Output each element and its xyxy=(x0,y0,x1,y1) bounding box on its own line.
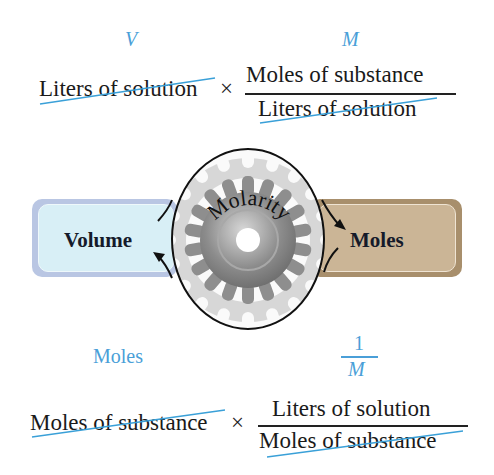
volume-box-label: Volume xyxy=(64,228,132,253)
arc-arrow-bottom-right xyxy=(324,248,338,272)
arc-arrow-top-right xyxy=(322,200,340,226)
arc-arrow-top-left xyxy=(158,200,172,221)
gear-icon xyxy=(154,146,342,334)
moles-box-label: Moles xyxy=(350,228,404,253)
